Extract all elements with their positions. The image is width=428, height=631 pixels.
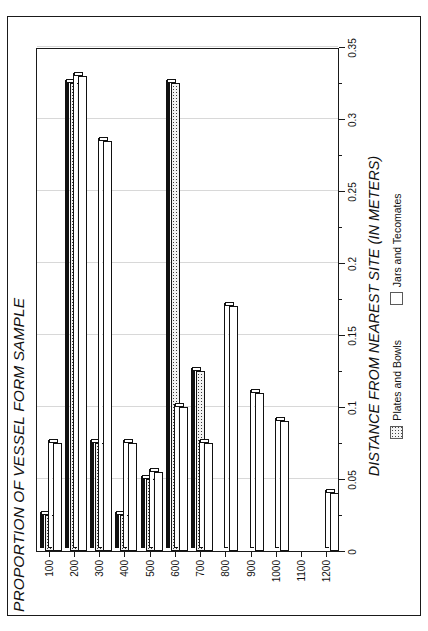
bar-end-cap: [276, 417, 285, 421]
bar-body: [280, 421, 289, 551]
value-tick-minor: [339, 83, 342, 84]
value-tick-minor: [339, 443, 342, 444]
bar-jars-and-tecomates-300: [103, 141, 112, 551]
legend-item-plates: Plates and Bowls: [390, 340, 403, 439]
value-tick-minor: [339, 515, 342, 516]
category-tick-label-500: 500: [144, 560, 155, 577]
bar-end-cap: [326, 489, 335, 493]
bar-body: [229, 306, 238, 551]
bar-top-face: [275, 418, 279, 548]
plot-area: [36, 48, 339, 552]
value-tick-minor: [339, 299, 342, 300]
bar-body: [255, 393, 264, 551]
bar-end-cap: [175, 403, 184, 407]
category-tick-label-200: 200: [68, 560, 79, 577]
bar-body: [154, 472, 163, 551]
bar-top-face: [90, 440, 94, 548]
category-tick-label-800: 800: [220, 560, 231, 577]
value-tick-label: 0.35: [347, 38, 358, 57]
category-tick: [251, 552, 252, 557]
bar-top-face: [48, 440, 52, 548]
value-tick-label: 0.2: [347, 257, 358, 271]
gridline: [37, 46, 338, 47]
value-tick: [339, 335, 345, 336]
value-tick-minor: [339, 227, 342, 228]
value-tick-label: 0.3: [347, 113, 358, 127]
category-tick: [326, 552, 327, 557]
bar-end-cap: [99, 137, 108, 141]
legend-label-plates: Plates and Bowls: [391, 340, 403, 421]
value-tick-label: 0.25: [347, 182, 358, 201]
value-tick: [339, 551, 345, 552]
value-tick: [339, 47, 345, 48]
category-tick-label-300: 300: [94, 560, 105, 577]
category-tick: [124, 552, 125, 557]
category-tick: [150, 552, 151, 557]
legend-label-jars: Jars and Tecomates: [391, 193, 403, 287]
bars-layer: [37, 49, 338, 551]
category-tick: [225, 552, 226, 557]
value-tick: [339, 119, 345, 120]
bar-top-face: [40, 512, 44, 548]
bar-end-cap: [167, 79, 176, 83]
bar-jars-and-tecomates-1000: [280, 421, 289, 551]
bar-jars-and-tecomates-400: [128, 443, 137, 551]
category-tick: [99, 552, 100, 557]
category-tick: [200, 552, 201, 557]
value-tick-minor: [339, 155, 342, 156]
bar-jars-and-tecomates-500: [154, 472, 163, 551]
legend-item-jars: Jars and Tecomates: [390, 193, 403, 305]
value-tick-label: 0.1: [347, 401, 358, 415]
value-tick-label: 0.15: [347, 326, 358, 345]
bar-top-face: [115, 512, 119, 548]
bar-end-cap: [74, 72, 83, 76]
bar-top-face: [250, 390, 254, 548]
value-tick: [339, 263, 345, 264]
bar-jars-and-tecomates-200: [78, 76, 87, 551]
value-tick: [339, 407, 345, 408]
category-tick-label-400: 400: [119, 560, 130, 577]
bar-end-cap: [192, 367, 201, 371]
bar-end-cap: [200, 439, 209, 443]
bar-body: [103, 141, 112, 551]
bar-top-face: [174, 404, 178, 548]
category-tick-label-100: 100: [43, 560, 54, 577]
bar-end-cap: [251, 389, 260, 393]
bar-end-cap: [124, 439, 133, 443]
bar-top-face: [141, 476, 145, 548]
category-tick-label-1200: 1200: [321, 560, 332, 582]
bar-top-face: [65, 80, 69, 548]
bar-top-face: [224, 303, 228, 548]
category-tick: [276, 552, 277, 557]
value-tick: [339, 191, 345, 192]
chart-title: PROPORTION OF VESSEL FORM SAMPLE: [10, 298, 28, 612]
bar-body: [53, 443, 62, 551]
category-tick: [74, 552, 75, 557]
bar-jars-and-tecomates-700: [204, 443, 213, 551]
category-tick-label-900: 900: [245, 560, 256, 577]
category-tick-label-1100: 1100: [296, 560, 307, 582]
value-tick-label: 0: [347, 549, 358, 555]
bar-body: [128, 443, 137, 551]
rotated-chart-canvas: PROPORTION OF VESSEL FORM SAMPLE Plates …: [8, 18, 412, 614]
category-tick: [49, 552, 50, 557]
legend-swatch-plates-icon: [390, 426, 403, 439]
bar-jars-and-tecomates-800: [229, 306, 238, 551]
bar-end-cap: [49, 439, 58, 443]
bar-jars-and-tecomates-100: [53, 443, 62, 551]
bar-end-cap: [150, 468, 159, 472]
bar-top-face: [199, 440, 203, 548]
legend: Plates and Bowls Jars and Tecomates: [389, 18, 403, 614]
category-axis: 100200300400500600700800900100011001200: [36, 552, 339, 614]
legend-swatch-jars-icon: [390, 292, 403, 305]
bar-top-face: [149, 469, 153, 548]
figure-frame: PROPORTION OF VESSEL FORM SAMPLE Plates …: [7, 16, 421, 616]
category-tick: [175, 552, 176, 557]
bar-top-face: [73, 73, 77, 548]
category-tick-label-1000: 1000: [270, 560, 281, 582]
category-tick-label-600: 600: [169, 560, 180, 577]
bar-top-face: [98, 138, 102, 548]
value-axis: 00.050.10.150.20.250.30.35: [339, 48, 369, 552]
bar-top-face: [123, 440, 127, 548]
axis-title-distance: DISTANCE FROM NEAREST SITE (IN METERS): [366, 18, 382, 614]
